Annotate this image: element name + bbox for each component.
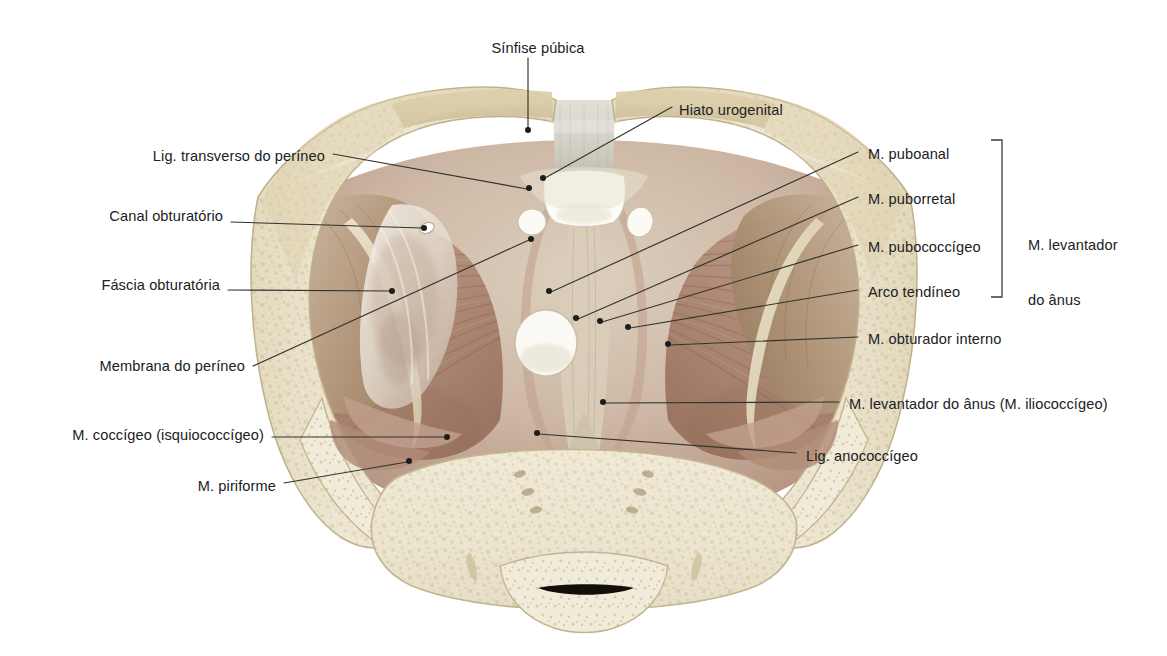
label-m-piriforme: M. piriforme	[0, 478, 276, 496]
label-m-puboanal: M. puboanal	[868, 146, 949, 164]
label-lig-anococcigeo: Lig. anococcígeo	[806, 448, 918, 466]
obturator-aperture-left	[518, 209, 546, 235]
label-fascia-obturatoria: Fáscia obturatória	[0, 277, 220, 295]
pelvic-floor-illustration	[0, 0, 1167, 656]
label-membrana-perineo: Membrana do períneo	[0, 358, 245, 376]
label-hiato-urogenital: Hiato urogenital	[679, 102, 783, 120]
label-m-levantador-do-anus-line1: M. levantador	[1028, 236, 1118, 254]
label-m-coccigeo: M. coccígeo (isquiococcígeo)	[0, 427, 264, 445]
label-canal-obturatorio: Canal obturatório	[0, 208, 223, 226]
label-lig-transverso-perineo: Lig. transverso do períneo	[0, 148, 325, 166]
label-sinfise-publica: Sínfise púbica	[483, 40, 593, 58]
label-m-levantador-do-anus-line2: do ânus	[1028, 291, 1118, 309]
label-m-levantador-iliococcigeo: M. levantador do ânus (M. iliococcígeo)	[849, 396, 1108, 414]
group-bracket-levantador-anus	[991, 140, 1002, 297]
figure-canvas: Sínfise púbica Hiato urogenital Lig. tra…	[0, 0, 1167, 656]
anatomy-illustration	[251, 87, 917, 633]
label-arco-tendineo: Arco tendíneo	[868, 284, 960, 302]
label-m-puborretal: M. puborretal	[868, 191, 955, 209]
label-m-obturador-interno: M. obturador interno	[868, 331, 1001, 349]
label-m-levantador-do-anus: M. levantador do ânus	[1028, 200, 1118, 328]
label-m-pubococcigeo: M. pubococcígeo	[868, 239, 981, 257]
